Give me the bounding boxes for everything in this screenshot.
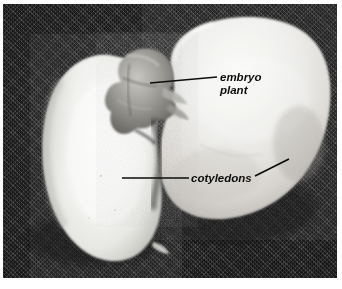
photograph-plate: embryo plant cotyledons [3, 4, 337, 278]
figure-root: embryo plant cotyledons [0, 0, 342, 289]
bean-seed-specimen [3, 4, 337, 278]
